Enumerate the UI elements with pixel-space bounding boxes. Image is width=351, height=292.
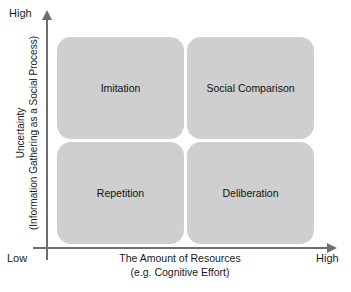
quadrant-top-left: Imitation xyxy=(57,37,184,139)
quadrant-matrix-figure: High Low High Uncertainty (Information G… xyxy=(0,0,351,292)
quadrant-bottom-left: Repetition xyxy=(57,142,184,244)
y-axis-low-label: Low xyxy=(7,252,27,265)
y-axis-arrow-icon xyxy=(42,10,52,20)
x-axis-line xyxy=(33,247,328,249)
x-axis-title-line2: (e.g. Cognitive Effort) xyxy=(46,265,314,279)
quadrant-label-repetition: Repetition xyxy=(93,187,148,200)
x-axis-title: The Amount of Resources (e.g. Cognitive … xyxy=(46,251,314,279)
quadrant-top-right: Social Comparison xyxy=(187,37,314,139)
quadrant-label-imitation: Imitation xyxy=(97,82,145,95)
y-axis-high-label: High xyxy=(9,7,32,20)
y-axis-line xyxy=(46,18,48,260)
quadrant-grid: Imitation Social Comparison Repetition D… xyxy=(57,37,314,244)
quadrant-bottom-right: Deliberation xyxy=(187,142,314,244)
x-axis-title-line1: The Amount of Resources xyxy=(46,251,314,265)
x-axis-high-label: High xyxy=(316,252,339,265)
y-axis-title: Uncertainty (Information Gathering as a … xyxy=(14,33,40,233)
quadrant-label-deliberation: Deliberation xyxy=(218,187,282,200)
y-axis-title-line1: Uncertainty xyxy=(14,33,27,233)
quadrant-label-social-comparison: Social Comparison xyxy=(202,82,298,95)
y-axis-title-line2: (Information Gathering as a Social Proce… xyxy=(27,33,40,233)
